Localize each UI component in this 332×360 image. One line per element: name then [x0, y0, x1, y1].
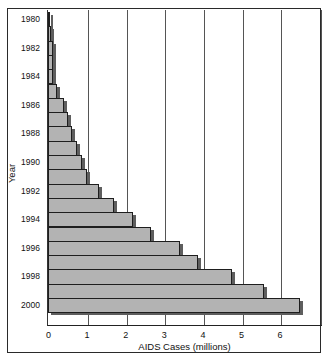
x-tick-label: 3 — [157, 330, 171, 340]
bar-fill — [48, 55, 53, 70]
bar-fill — [48, 112, 68, 127]
x-tick-label: 4 — [196, 330, 210, 340]
bar-fill — [48, 141, 77, 156]
y-tick-label: 1992 — [10, 186, 40, 196]
bar-fill — [48, 184, 99, 199]
x-tick-label: 1 — [80, 330, 94, 340]
gridline — [243, 10, 244, 325]
bar-fill — [48, 269, 232, 284]
gridline — [281, 10, 282, 325]
y-tick-label: 1986 — [10, 100, 40, 110]
y-tick-label: 1984 — [10, 71, 40, 81]
y-tick-label: 1998 — [10, 271, 40, 281]
bar-fill — [48, 255, 198, 270]
bar-fill — [48, 12, 50, 27]
bar-fill — [48, 69, 53, 84]
plot-area — [47, 10, 322, 326]
bar-fill — [48, 26, 51, 41]
x-tick-label: 2 — [119, 330, 133, 340]
bar-fill — [48, 298, 300, 313]
bar-fill — [48, 98, 64, 113]
x-tick-label: 5 — [235, 330, 249, 340]
bar-fill — [48, 212, 133, 227]
bar-shadow — [51, 15, 53, 29]
y-tick-label: 1980 — [10, 14, 40, 24]
bar-fill — [48, 41, 53, 56]
x-axis-label: AIDS Cases (millions) — [47, 341, 322, 352]
y-tick-label: 1988 — [10, 128, 40, 138]
x-tick-label: 0 — [42, 330, 56, 340]
y-tick-label: 1996 — [10, 243, 40, 253]
bar-fill — [48, 155, 82, 170]
bar-fill — [48, 198, 114, 213]
y-tick-label: 1982 — [10, 43, 40, 53]
bar-fill — [48, 84, 57, 99]
bar-fill — [48, 241, 180, 256]
y-axis-label: Year — [6, 164, 17, 183]
y-tick-label: 2000 — [10, 300, 40, 310]
bar-fill — [48, 284, 264, 299]
gridline — [321, 10, 322, 325]
bar-fill — [48, 126, 72, 141]
bar-fill — [48, 227, 151, 242]
y-tick-label: 1994 — [10, 214, 40, 224]
x-tick-label: 6 — [273, 330, 287, 340]
bar-fill — [48, 169, 87, 184]
